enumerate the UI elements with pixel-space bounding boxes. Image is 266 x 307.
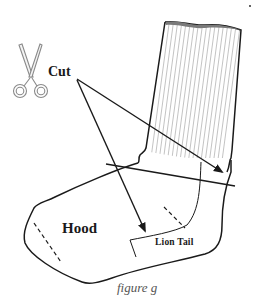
heel-dashed-line	[164, 207, 185, 228]
arrow-to-ankle	[77, 79, 222, 172]
lion-tail-label: Lion Tail	[155, 237, 194, 247]
stray-dot	[249, 5, 251, 7]
cut-label: Cut	[48, 64, 71, 80]
leg-top-band	[165, 22, 241, 30]
sock-illustration	[0, 0, 266, 307]
leg-outline	[165, 22, 241, 172]
hood-dashed-line	[34, 223, 61, 262]
figure-caption: figure g	[117, 280, 157, 296]
arrow-to-foot	[77, 80, 145, 231]
sock-pattern-figure: Cut Hood Lion Tail figure g	[0, 0, 266, 307]
rib-lines	[151, 24, 240, 158]
leg-left-edge	[138, 22, 165, 163]
scissors-icon	[14, 44, 48, 98]
sock-leg	[138, 22, 241, 172]
hood-label: Hood	[62, 220, 97, 237]
